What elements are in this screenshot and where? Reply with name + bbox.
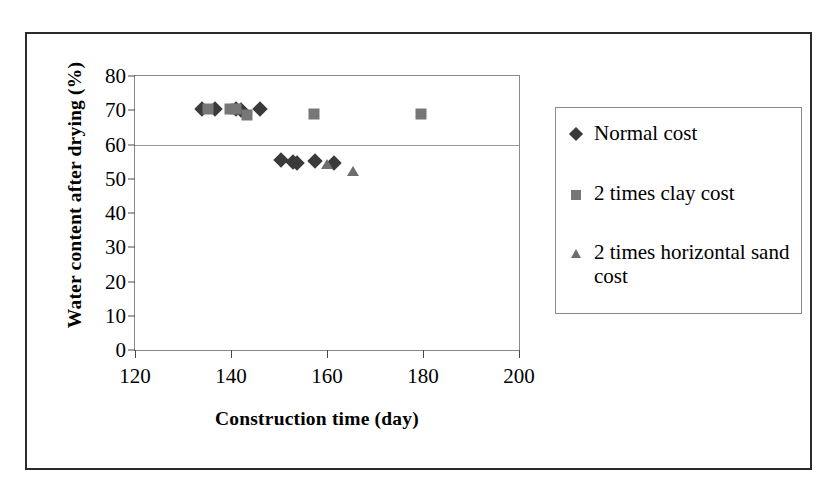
y-tick-label-40: 40 (105, 201, 126, 226)
x-tick-mark-140 (231, 350, 232, 358)
x-tick-mark-120 (135, 350, 136, 358)
x-tick-label-180: 180 (407, 364, 439, 389)
y-tick-label-60: 60 (105, 132, 126, 157)
data-point-square-1-2 (230, 104, 241, 115)
scatter-chart: Water content after drying (%) Construct… (27, 34, 814, 472)
y-tick-mark-60 (128, 144, 135, 145)
legend-item-0[interactable]: Normal cost (570, 122, 791, 146)
legend-triangle-icon (570, 248, 586, 260)
y-tick-mark-70 (128, 110, 135, 111)
legend-item-label: 2 times clay cost (594, 182, 791, 206)
x-tick-mark-180 (423, 350, 424, 358)
y-tick-mark-20 (128, 281, 135, 282)
y-tick-label-50: 50 (105, 166, 126, 191)
y-tick-mark-80 (128, 76, 135, 77)
plot-area: 80706050403020100 120140160180200 (134, 75, 520, 351)
y-tick-label-10: 10 (105, 303, 126, 328)
legend-square-icon (570, 189, 586, 201)
data-point-diamond-0-4 (252, 101, 268, 117)
y-tick-label-70: 70 (105, 98, 126, 123)
data-point-triangle-2-0 (321, 159, 333, 169)
x-tick-label-200: 200 (503, 364, 535, 389)
figure-frame: Water content after drying (%) Construct… (25, 32, 812, 470)
y-tick-mark-10 (128, 315, 135, 316)
x-tick-label-120: 120 (119, 364, 151, 389)
y-tick-label-0: 0 (116, 338, 127, 363)
data-point-square-1-5 (415, 109, 426, 120)
y-tick-label-80: 80 (105, 64, 126, 89)
x-tick-label-160: 160 (311, 364, 343, 389)
y-tick-label-20: 20 (105, 269, 126, 294)
y-tick-mark-40 (128, 213, 135, 214)
x-tick-label-140: 140 (215, 364, 247, 389)
legend-item-2[interactable]: 2 times horizontal sand cost (570, 241, 791, 288)
data-point-triangle-2-1 (347, 166, 359, 176)
legend-item-label: 2 times horizontal sand cost (594, 241, 791, 288)
data-point-square-1-0 (203, 104, 214, 115)
x-tick-mark-200 (519, 350, 520, 358)
y-tick-mark-30 (128, 247, 135, 248)
x-tick-mark-160 (327, 350, 328, 358)
y-axis-title: Water content after drying (%) (64, 45, 86, 345)
legend-item-1[interactable]: 2 times clay cost (570, 182, 791, 206)
x-axis-title: Construction time (day) (107, 408, 527, 430)
gridline-60 (135, 145, 519, 146)
y-tick-label-30: 30 (105, 235, 126, 260)
data-point-square-1-4 (308, 109, 319, 120)
chart-legend: Normal cost2 times clay cost2 times hori… (555, 107, 802, 314)
data-point-square-1-3 (241, 109, 252, 120)
legend-diamond-icon (570, 129, 586, 141)
legend-item-label: Normal cost (594, 122, 791, 146)
y-tick-mark-0 (128, 350, 135, 351)
y-tick-mark-50 (128, 178, 135, 179)
